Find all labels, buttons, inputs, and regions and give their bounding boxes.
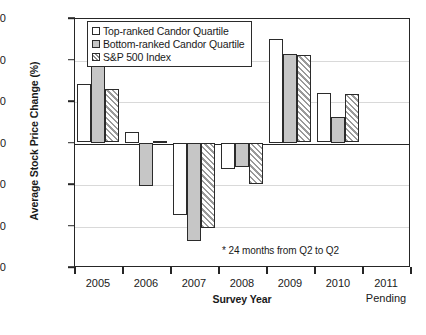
- y-tick-label: -60: [0, 261, 6, 273]
- y-tick-label: 40: [0, 54, 6, 66]
- bar: [297, 55, 311, 142]
- bar: [105, 89, 119, 143]
- y-tick-label: -40: [0, 220, 6, 232]
- x-tick-mark: [218, 267, 220, 274]
- x-tick-label: 2011: [358, 277, 414, 289]
- bar: [269, 39, 283, 143]
- x-tick-mark: [410, 267, 412, 274]
- bar: [317, 93, 331, 143]
- y-axis-title: Average Stock Price Change (%): [28, 21, 40, 261]
- x-tick-mark: [266, 267, 268, 274]
- x-tick-mark: [314, 267, 316, 274]
- bar: [221, 143, 235, 170]
- y-tick-label: -20: [0, 178, 6, 190]
- bar: [283, 54, 297, 142]
- legend-item: Top-ranked Candor Quartile: [92, 24, 245, 37]
- x-tick-mark: [74, 267, 76, 274]
- bar-chart: Average Stock Price Change (%) 6040200-2…: [0, 0, 426, 335]
- x-tick-mark: [122, 267, 124, 274]
- legend-label: Bottom-ranked Candor Quartile: [103, 38, 245, 50]
- bar: [77, 84, 91, 142]
- chart-legend: Top-ranked Candor QuartileBottom-ranked …: [87, 21, 252, 67]
- chart-footnote: * 24 months from Q2 to Q2: [222, 245, 339, 256]
- bar: [139, 143, 153, 187]
- legend-swatch-icon: [92, 53, 100, 61]
- bar: [249, 143, 263, 185]
- y-tick-label: 60: [0, 12, 6, 24]
- bar: [173, 143, 187, 216]
- bar: [125, 132, 139, 142]
- bar: [201, 143, 215, 228]
- bar: [345, 94, 359, 143]
- bar: [331, 117, 345, 143]
- bar: [153, 141, 167, 143]
- legend-label: S&P 500 Index: [103, 51, 171, 63]
- legend-swatch-icon: [92, 40, 100, 48]
- x-tick-mark: [170, 267, 172, 274]
- legend-item: Bottom-ranked Candor Quartile: [92, 37, 245, 50]
- y-tick-label: 0: [0, 137, 6, 149]
- bar: [187, 143, 201, 242]
- x-axis-title: Survey Year: [74, 293, 410, 305]
- legend-label: Top-ranked Candor Quartile: [103, 25, 229, 37]
- legend-swatch-icon: [92, 27, 100, 35]
- bar: [91, 65, 105, 143]
- x-tick-mark: [362, 267, 364, 274]
- bar: [235, 143, 249, 168]
- legend-item: S&P 500 Index: [92, 50, 245, 63]
- y-tick-label: 20: [0, 95, 6, 107]
